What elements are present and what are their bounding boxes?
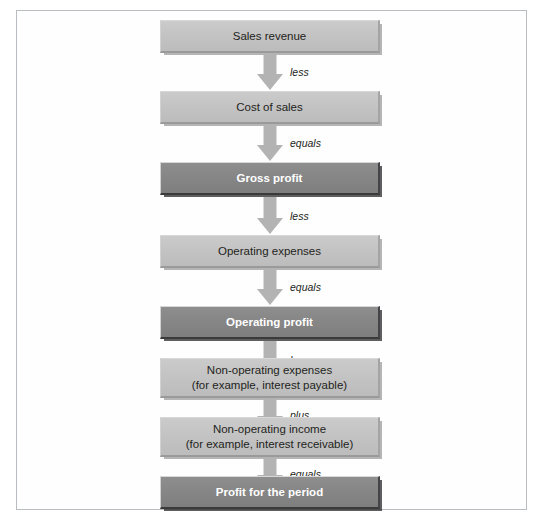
flow-node-label: Gross profit: [161, 171, 378, 185]
flow-node-sales-revenue: Sales revenue: [160, 20, 380, 53]
arrow-down-icon: [253, 124, 287, 162]
figure-caption: [20, 516, 320, 528]
arrow-down-icon: [253, 268, 287, 306]
flow-node-label-line2: (for example, interest receivable): [186, 438, 353, 450]
flow-node-label: Profit for the period: [161, 485, 378, 499]
flow-connector-equals-1: equals: [160, 124, 380, 162]
flow-connector-label: less: [290, 210, 309, 222]
arrow-down-icon: [253, 53, 287, 91]
flow-node-non-operating-expenses: Non-operating expenses (for example, int…: [160, 358, 380, 398]
flow-connector-less-2: less: [160, 197, 380, 235]
flow-node-gross-profit: Gross profit: [160, 162, 380, 195]
flow-connector-equals-2: equals: [160, 268, 380, 306]
flow-node-label: Non-operating income (for example, inter…: [161, 422, 378, 450]
flow-node-label: Sales revenue: [161, 29, 378, 43]
arrow-down-icon: [253, 197, 287, 235]
flow-node-label-line2: (for example, interest payable): [192, 379, 347, 391]
flow-node-operating-profit: Operating profit: [160, 306, 380, 339]
flow-connector-label: less: [290, 66, 309, 78]
flow-node-cost-of-sales: Cost of sales: [160, 91, 380, 124]
flowchart: Sales revenue less Cost of sales equals: [17, 11, 526, 509]
flow-connector-label: equals: [290, 281, 321, 293]
flow-node-operating-expenses: Operating expenses: [160, 235, 380, 268]
figure-frame: Sales revenue less Cost of sales equals: [16, 10, 527, 510]
flow-node-non-operating-income: Non-operating income (for example, inter…: [160, 417, 380, 457]
flow-node-label: Operating expenses: [161, 244, 378, 258]
flow-node-label-line1: Non-operating income: [213, 423, 326, 435]
flow-connector-less-1: less: [160, 53, 380, 91]
flow-node-label: Non-operating expenses (for example, int…: [161, 363, 378, 391]
flow-node-label: Operating profit: [161, 315, 378, 329]
flow-node-label: Cost of sales: [161, 100, 378, 114]
flow-node-profit-for-the-period: Profit for the period: [160, 476, 380, 509]
flow-node-label-line1: Non-operating expenses: [207, 364, 332, 376]
flow-connector-label: equals: [290, 137, 321, 149]
